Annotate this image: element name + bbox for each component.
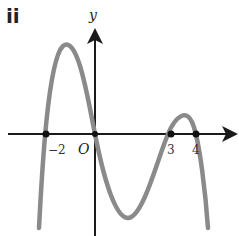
root-point-4 bbox=[193, 131, 200, 138]
root-point-3 bbox=[168, 131, 175, 138]
polynomial-curve bbox=[39, 45, 208, 228]
root-point-origin bbox=[92, 131, 98, 137]
tick-label-4: 4 bbox=[192, 143, 200, 157]
tick-label-neg2: −2 bbox=[48, 143, 66, 157]
tick-label-3: 3 bbox=[167, 143, 175, 157]
origin-label: O bbox=[78, 141, 90, 157]
y-axis-label: y bbox=[88, 7, 98, 23]
root-point-neg2 bbox=[43, 131, 50, 138]
graph: −2 O 3 4 y bbox=[0, 0, 239, 236]
